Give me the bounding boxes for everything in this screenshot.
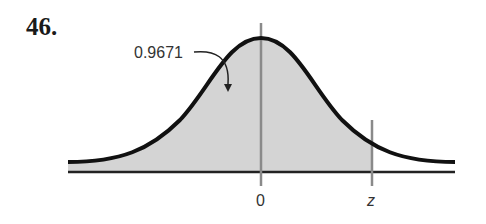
area-label: 0.9671 [134, 44, 183, 61]
z-label: z [366, 192, 375, 209]
normal-curve-diagram: 0.9671 0 z [0, 0, 486, 224]
zero-label: 0 [256, 192, 265, 209]
